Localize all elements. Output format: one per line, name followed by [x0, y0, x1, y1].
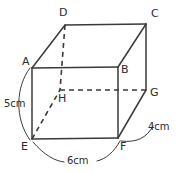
edge-B-C — [118, 24, 146, 67]
edge-A-B — [32, 67, 118, 68]
edge-D-H — [60, 25, 65, 90]
edge-F-E — [32, 138, 118, 139]
vertex-label-C: C — [151, 7, 159, 20]
solid-edges-group — [32, 24, 146, 139]
arc-6cm-right — [97, 141, 120, 161]
arc-6cm-left — [33, 142, 64, 162]
vertex-label-G: G — [150, 86, 159, 99]
measurement-label-height: 5cm — [4, 98, 26, 109]
edge-F-G — [118, 90, 146, 138]
measurement-arcs-group — [19, 68, 153, 162]
vertex-labels-group: A B C D E F G H — [21, 6, 159, 153]
measurement-labels-group: 5cm 6cm 4cm — [4, 98, 170, 166]
vertex-label-D: D — [59, 6, 67, 19]
edge-E-H — [32, 90, 60, 139]
dashed-edges-group — [32, 25, 146, 139]
vertex-label-E: E — [21, 140, 28, 153]
vertex-label-B: B — [121, 63, 129, 76]
measurement-label-depth: 4cm — [148, 121, 170, 132]
edge-D-C — [65, 24, 146, 25]
vertex-label-F: F — [120, 140, 126, 153]
cuboid-svg: A B C D E F G H 5cm 6cm 4cm — [0, 0, 183, 172]
measurement-label-width: 6cm — [67, 155, 89, 166]
vertex-label-H: H — [58, 92, 66, 105]
cuboid-diagram: A B C D E F G H 5cm 6cm 4cm — [0, 0, 183, 172]
edge-A-D — [32, 25, 65, 68]
vertex-label-A: A — [22, 55, 30, 68]
